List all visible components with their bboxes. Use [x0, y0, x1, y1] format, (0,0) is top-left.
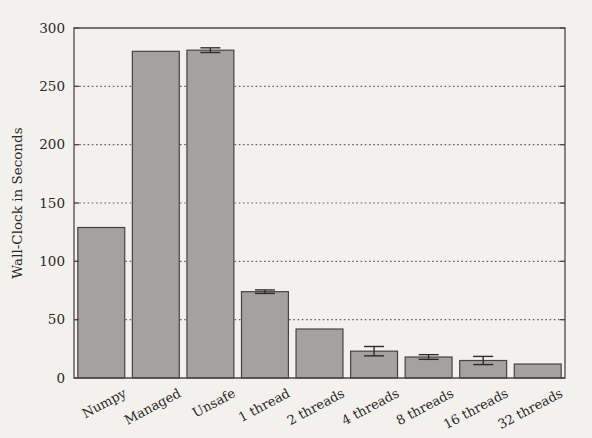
y-tick-label-300: 300 [39, 20, 65, 36]
bar-2-threads [296, 329, 343, 378]
x-category-label-4-threads: 4 threads [339, 385, 401, 428]
y-axis-title-group: Wall-Clock in Seconds [9, 127, 25, 278]
y-tick-labels-group: 050100150200250300 [39, 20, 65, 386]
y-tick-label-50: 50 [48, 311, 65, 327]
bar-chart-svg: 050100150200250300 NumpyManagedUnsafe1 t… [0, 0, 592, 438]
bar-8-threads [405, 357, 452, 378]
x-category-labels-group: NumpyManagedUnsafe1 thread2 threads4 thr… [80, 385, 566, 432]
bars-group [78, 48, 561, 378]
y-tick-label-200: 200 [39, 136, 65, 152]
chart-figure: 050100150200250300 NumpyManagedUnsafe1 t… [0, 0, 592, 438]
y-tick-label-150: 150 [39, 195, 65, 211]
bar-unsafe [187, 50, 234, 378]
y-tick-label-0: 0 [56, 370, 65, 386]
x-category-label-1-thread: 1 thread [236, 385, 292, 425]
bar-1-thread [241, 292, 288, 378]
y-tick-label-250: 250 [39, 78, 65, 94]
bar-numpy [78, 228, 125, 379]
y-axis-title: Wall-Clock in Seconds [9, 127, 25, 278]
bar-managed [132, 51, 179, 378]
x-category-label-unsafe: Unsafe [190, 385, 238, 420]
x-category-label-managed: Managed [122, 385, 183, 427]
x-category-label-2-threads: 2 threads [285, 385, 347, 428]
bar-32-threads [514, 364, 561, 378]
y-tick-label-100: 100 [39, 253, 65, 269]
